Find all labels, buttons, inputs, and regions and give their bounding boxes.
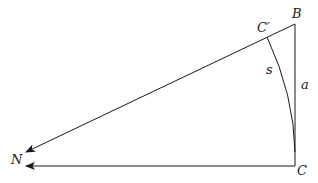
label-c-prime: C′ bbox=[257, 20, 270, 35]
label-b: B bbox=[291, 6, 302, 21]
label-n: N bbox=[10, 152, 23, 167]
label-c: C bbox=[297, 163, 307, 178]
diagram-canvas: B C′ s a N C bbox=[0, 0, 318, 183]
label-s: s bbox=[266, 62, 273, 77]
ray-b-to-n bbox=[26, 24, 295, 152]
label-a: a bbox=[301, 77, 309, 92]
arc-s bbox=[267, 37, 295, 152]
